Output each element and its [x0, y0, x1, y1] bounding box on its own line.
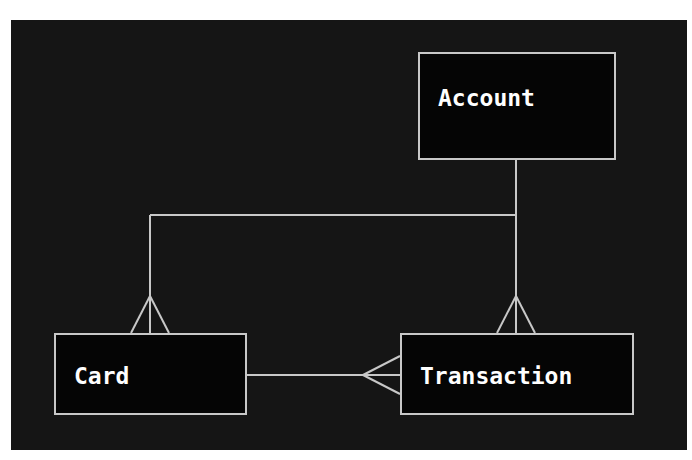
- relationship-lines: [0, 0, 692, 460]
